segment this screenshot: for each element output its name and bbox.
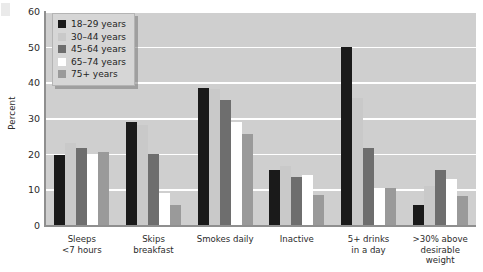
bar [341, 47, 352, 225]
y-tick-label: 10 [28, 184, 40, 195]
x-category-label: Skipsbreakfast [118, 231, 190, 272]
bar [435, 170, 446, 225]
bar [54, 155, 65, 225]
legend-item[interactable]: 65–74 years [58, 56, 126, 69]
bar [159, 193, 170, 225]
bar [446, 179, 457, 225]
bar [87, 154, 98, 225]
bar-group [404, 11, 476, 225]
bar-group [333, 11, 405, 225]
legend-swatch-icon [58, 58, 66, 66]
x-category-label: Sleeps<7 hours [46, 231, 118, 272]
x-axis-category-labels: Sleeps<7 hoursSkipsbreakfastSmokes daily… [46, 231, 476, 272]
legend-item-label: 18–29 years [71, 19, 126, 29]
bar [126, 122, 137, 225]
legend-item[interactable]: 45–64 years [58, 43, 126, 56]
legend-item-label: 65–74 years [71, 57, 126, 67]
bar [352, 98, 363, 225]
legend-swatch-icon [58, 45, 66, 53]
x-axis-line [46, 225, 476, 227]
legend: 18–29 years30–44 years45–64 years65–74 y… [52, 13, 135, 86]
legend-item-label: 45–64 years [71, 44, 126, 54]
bar-group [261, 11, 333, 225]
legend-swatch-icon [58, 20, 66, 28]
y-axis-tick-labels: 0102030405060 [0, 0, 46, 232]
y-tick-label: 40 [28, 77, 40, 88]
bar [269, 170, 280, 225]
y-tick-label: 60 [28, 6, 40, 17]
legend-item-label: 30–44 years [71, 32, 126, 42]
bar [302, 175, 313, 225]
bar [231, 122, 242, 225]
legend-item[interactable]: 75+ years [58, 68, 126, 81]
bar [76, 148, 87, 225]
bar [137, 125, 148, 225]
bar [374, 188, 385, 225]
x-category-label: Inactive [261, 231, 333, 272]
bar [413, 205, 424, 225]
bar [385, 188, 396, 225]
legend-item[interactable]: 18–29 years [58, 18, 126, 31]
grouped-bar-chart: Percent 0102030405060 18–29 years30–44 y… [0, 0, 483, 272]
bar [313, 195, 324, 225]
bar [424, 186, 435, 225]
legend-item[interactable]: 30–44 years [58, 31, 126, 44]
bar [457, 196, 468, 225]
bar [220, 100, 231, 225]
legend-swatch-icon [58, 70, 66, 78]
y-tick-label: 0 [34, 220, 40, 231]
bar [291, 177, 302, 225]
x-category-label: 5+ drinksin a day [333, 231, 405, 272]
x-category-label: Smokes daily [189, 231, 261, 272]
x-category-label: >30% abovedesirableweight [404, 231, 476, 272]
y-tick-label: 30 [28, 113, 40, 124]
bar [242, 134, 253, 225]
bar [170, 205, 181, 225]
bar [65, 143, 76, 225]
bar [363, 148, 374, 225]
legend-swatch-icon [58, 33, 66, 41]
bar [148, 154, 159, 225]
y-tick-label: 20 [28, 148, 40, 159]
bar [198, 88, 209, 225]
bar-group [189, 11, 261, 225]
bar [98, 152, 109, 225]
bar [209, 89, 220, 225]
bar [280, 166, 291, 225]
y-tick-label: 50 [28, 41, 40, 52]
legend-item-label: 75+ years [71, 69, 118, 79]
